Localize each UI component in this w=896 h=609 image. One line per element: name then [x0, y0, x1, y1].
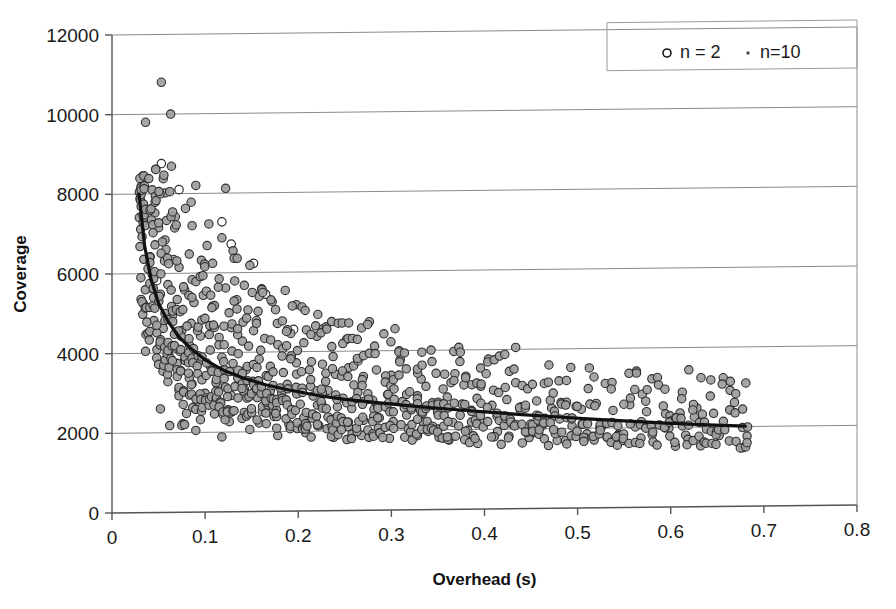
data-point — [218, 234, 226, 242]
data-point — [329, 352, 337, 360]
data-point — [192, 181, 200, 189]
data-point — [562, 376, 570, 384]
data-point — [240, 281, 248, 289]
data-point — [179, 400, 187, 408]
data-point — [387, 338, 395, 346]
data-point — [208, 303, 216, 311]
data-point — [743, 438, 751, 446]
data-point — [175, 185, 183, 193]
data-point — [418, 361, 426, 369]
data-point — [183, 322, 191, 330]
data-point — [709, 409, 717, 417]
data-point — [141, 347, 149, 355]
data-point — [180, 420, 188, 428]
data-point — [712, 440, 720, 448]
data-point — [184, 369, 192, 377]
data-point — [661, 385, 669, 393]
y-tick-label-8000: 8000 — [57, 184, 99, 205]
data-point — [471, 434, 479, 442]
data-point — [677, 395, 685, 403]
data-point — [313, 420, 321, 428]
y-tick-label-0: 0 — [88, 503, 99, 524]
x-tick-label-1: 0.1 — [192, 526, 218, 547]
data-point — [379, 433, 387, 441]
data-point — [259, 288, 267, 296]
y-tick-label-10000: 10000 — [46, 105, 99, 126]
data-point — [256, 346, 264, 354]
data-point — [253, 363, 261, 371]
data-point — [503, 395, 511, 403]
data-point — [328, 342, 336, 350]
data-point — [221, 184, 229, 192]
data-point — [271, 409, 279, 417]
data-point — [279, 368, 287, 376]
data-point — [318, 360, 326, 368]
data-point — [501, 383, 509, 391]
data-point — [698, 410, 706, 418]
data-point — [440, 370, 448, 378]
data-point — [422, 382, 430, 390]
data-point — [262, 419, 270, 427]
data-point — [282, 327, 290, 335]
data-point — [233, 305, 241, 313]
data-points-layer — [135, 78, 752, 452]
data-point — [358, 381, 366, 389]
data-point — [580, 437, 588, 445]
gridline-y-10000 — [112, 107, 857, 115]
data-point — [443, 433, 451, 441]
data-point — [718, 380, 726, 388]
data-point — [167, 162, 175, 170]
data-point — [206, 291, 214, 299]
data-point — [218, 218, 226, 226]
data-point — [591, 402, 599, 410]
data-point — [400, 349, 408, 357]
data-point — [145, 336, 153, 344]
data-point — [544, 378, 552, 386]
data-point — [141, 118, 149, 126]
data-point — [156, 405, 164, 413]
data-point — [246, 261, 254, 269]
data-point — [642, 397, 650, 405]
y-tick-label-4000: 4000 — [57, 344, 99, 365]
data-point — [152, 165, 160, 173]
data-point — [254, 307, 262, 315]
data-point — [312, 412, 320, 420]
data-point — [402, 365, 410, 373]
data-point — [397, 420, 405, 428]
data-point — [278, 317, 286, 325]
data-point — [322, 405, 330, 413]
data-point — [528, 380, 536, 388]
data-point — [223, 392, 231, 400]
data-point — [444, 417, 452, 425]
data-point — [380, 330, 388, 338]
data-point — [497, 440, 505, 448]
data-point — [363, 320, 371, 328]
data-point — [303, 422, 311, 430]
data-point — [677, 414, 685, 422]
data-point — [234, 350, 242, 358]
data-point — [253, 416, 261, 424]
data-point — [521, 401, 529, 409]
legend-marker-small-dot — [746, 51, 749, 54]
data-point — [350, 381, 358, 389]
data-point — [450, 376, 458, 384]
data-point — [205, 220, 213, 228]
data-point — [185, 250, 193, 258]
data-point — [252, 319, 260, 327]
data-point — [389, 408, 397, 416]
data-point — [192, 426, 200, 434]
data-point — [461, 400, 469, 408]
x-tick-label-5: 0.5 — [564, 522, 590, 543]
data-point — [164, 260, 172, 268]
data-point — [487, 433, 495, 441]
data-point — [450, 399, 458, 407]
data-point — [456, 357, 464, 365]
data-point — [230, 277, 238, 285]
x-tick-label-0: 0 — [107, 527, 118, 548]
data-point — [653, 441, 661, 449]
data-point — [626, 394, 634, 402]
data-point — [689, 406, 697, 414]
data-point — [371, 349, 379, 357]
data-point — [218, 433, 226, 441]
data-point — [201, 314, 209, 322]
